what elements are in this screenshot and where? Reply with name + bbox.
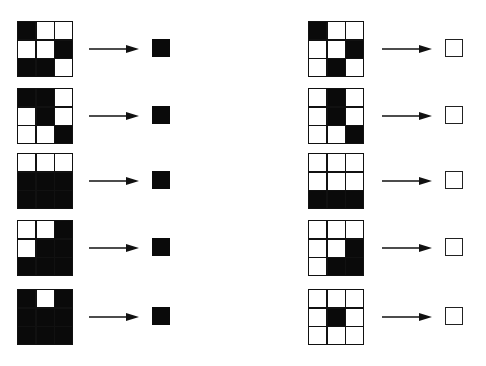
grid-cell-r2c1: [18, 309, 35, 326]
grid-cell-r1c1: [309, 89, 326, 106]
right-output-square-4: [445, 238, 463, 256]
grid-cell-r3c1: [18, 191, 35, 208]
grid-cell-r3c1: [18, 59, 35, 76]
grid-cell-r3c3: [55, 191, 72, 208]
grid-cell-r2c3: [55, 309, 72, 326]
grid-cell-r2c1: [309, 309, 326, 326]
grid-cell-r1c2: [37, 89, 54, 106]
left-input-grid-1: [17, 21, 73, 77]
grid-cell-r3c2: [328, 327, 345, 344]
grid-cell-r2c1: [309, 41, 326, 58]
right-output-square-1: [445, 39, 463, 57]
grid-cell-r3c3: [346, 258, 363, 275]
grid-cell-r1c2: [328, 221, 345, 238]
grid-cell-r2c2: [328, 108, 345, 125]
grid-cell-r2c2: [37, 240, 54, 257]
grid-cell-r2c3: [55, 240, 72, 257]
right-arrow-icon: [381, 176, 433, 186]
grid-cell-r1c2: [328, 290, 345, 307]
grid-cell-r1c3: [346, 89, 363, 106]
right-input-grid-4: [308, 220, 364, 276]
grid-cell-r2c3: [346, 240, 363, 257]
grid-cell-r1c2: [37, 221, 54, 238]
right-arrow-icon: [381, 243, 433, 253]
grid-cell-r3c1: [18, 126, 35, 143]
grid-cell-r3c2: [328, 126, 345, 143]
right-output-square-5: [445, 307, 463, 325]
grid-cell-r3c3: [346, 59, 363, 76]
grid-cell-r3c1: [309, 59, 326, 76]
grid-cell-r1c2: [328, 154, 345, 171]
left-input-grid-3: [17, 153, 73, 209]
right-arrow-icon: [381, 111, 433, 121]
right-arrow-icon: [88, 312, 140, 322]
grid-cell-r2c2: [37, 309, 54, 326]
grid-cell-r2c1: [309, 173, 326, 190]
grid-cell-r2c1: [18, 108, 35, 125]
grid-cell-r3c3: [346, 126, 363, 143]
right-arrow-icon: [88, 111, 140, 121]
grid-cell-r3c1: [18, 327, 35, 344]
grid-cell-r2c2: [328, 240, 345, 257]
left-output-square-4: [152, 238, 170, 256]
grid-cell-r1c1: [18, 290, 35, 307]
grid-cell-r3c2: [37, 191, 54, 208]
grid-cell-r1c1: [309, 290, 326, 307]
right-output-square-3: [445, 171, 463, 189]
grid-cell-r2c3: [55, 41, 72, 58]
right-arrow-icon: [381, 312, 433, 322]
grid-cell-r1c3: [346, 22, 363, 39]
left-output-square-3: [152, 171, 170, 189]
grid-cell-r2c1: [309, 240, 326, 257]
grid-cell-r1c1: [18, 89, 35, 106]
grid-cell-r1c2: [37, 154, 54, 171]
right-arrow-icon: [88, 243, 140, 253]
grid-cell-r1c3: [346, 154, 363, 171]
grid-cell-r1c3: [55, 290, 72, 307]
grid-cell-r3c3: [346, 327, 363, 344]
grid-cell-r1c3: [55, 221, 72, 238]
grid-cell-r1c1: [18, 221, 35, 238]
left-output-square-1: [152, 39, 170, 57]
grid-cell-r3c3: [55, 59, 72, 76]
grid-cell-r2c2: [328, 41, 345, 58]
grid-cell-r2c1: [309, 108, 326, 125]
right-arrow-icon: [381, 44, 433, 54]
grid-cell-r3c2: [37, 126, 54, 143]
grid-cell-r2c2: [328, 173, 345, 190]
grid-cell-r1c2: [328, 89, 345, 106]
grid-cell-r2c3: [346, 41, 363, 58]
grid-cell-r1c2: [37, 290, 54, 307]
grid-cell-r2c1: [18, 173, 35, 190]
grid-cell-r1c1: [18, 154, 35, 171]
grid-cell-r3c1: [309, 191, 326, 208]
grid-cell-r1c3: [55, 154, 72, 171]
grid-cell-r1c3: [346, 290, 363, 307]
grid-cell-r1c2: [37, 22, 54, 39]
grid-cell-r2c2: [37, 41, 54, 58]
grid-cell-r3c2: [328, 59, 345, 76]
grid-cell-r3c2: [37, 258, 54, 275]
grid-cell-r2c3: [346, 309, 363, 326]
right-input-grid-1: [308, 21, 364, 77]
left-input-grid-5: [17, 289, 73, 345]
grid-cell-r2c1: [18, 240, 35, 257]
grid-cell-r3c3: [55, 258, 72, 275]
right-input-grid-3: [308, 153, 364, 209]
right-arrow-icon: [88, 44, 140, 54]
grid-cell-r3c3: [55, 126, 72, 143]
grid-cell-r1c1: [309, 154, 326, 171]
grid-cell-r3c2: [37, 59, 54, 76]
grid-cell-r2c2: [37, 173, 54, 190]
grid-cell-r2c2: [328, 309, 345, 326]
grid-cell-r2c3: [55, 173, 72, 190]
left-output-square-2: [152, 106, 170, 124]
grid-cell-r2c2: [37, 108, 54, 125]
right-input-grid-2: [308, 88, 364, 144]
right-input-grid-5: [308, 289, 364, 345]
grid-cell-r1c3: [55, 22, 72, 39]
grid-cell-r1c3: [346, 221, 363, 238]
grid-cell-r2c1: [18, 41, 35, 58]
grid-cell-r1c1: [309, 221, 326, 238]
grid-cell-r3c3: [346, 191, 363, 208]
